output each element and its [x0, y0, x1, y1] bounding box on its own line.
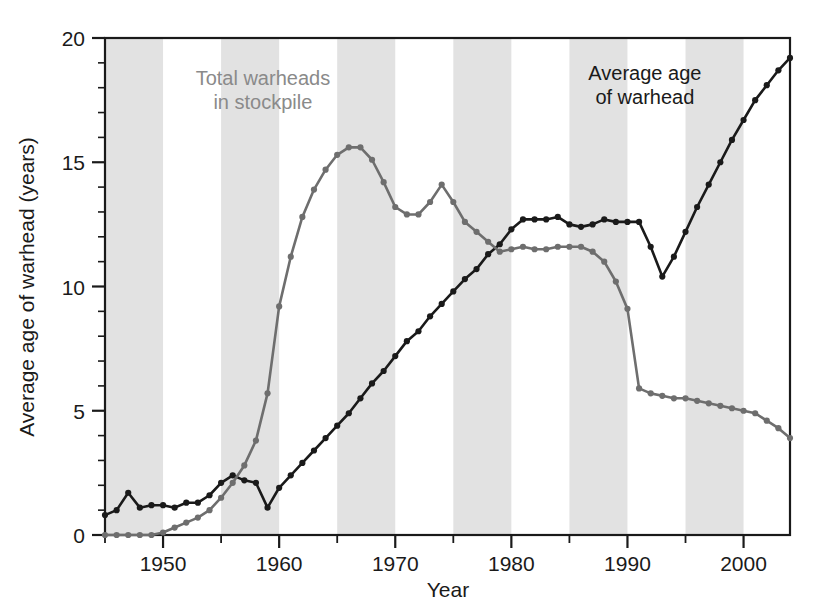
data-point — [764, 82, 770, 88]
year-band — [337, 38, 395, 535]
data-point — [648, 244, 654, 250]
data-point — [648, 390, 654, 396]
data-point — [148, 532, 154, 538]
data-point — [439, 301, 445, 307]
x-axis-title: Year — [427, 578, 469, 601]
data-point — [241, 477, 247, 483]
data-point — [334, 152, 340, 158]
data-point — [346, 144, 352, 150]
data-point — [706, 182, 712, 188]
data-point — [485, 239, 491, 245]
data-point — [102, 512, 108, 518]
data-point — [160, 529, 166, 535]
x-tick-label: 1970 — [372, 552, 419, 575]
data-point — [288, 254, 294, 260]
data-point — [671, 395, 677, 401]
data-point — [322, 167, 328, 173]
data-point — [241, 462, 247, 468]
data-point — [659, 393, 665, 399]
x-tick-label: 2000 — [720, 552, 767, 575]
data-point — [264, 505, 270, 511]
data-point — [694, 398, 700, 404]
data-point — [485, 251, 491, 257]
data-point — [172, 505, 178, 511]
annotation-line-2: of warhead — [595, 86, 694, 108]
data-point — [439, 182, 445, 188]
data-point — [392, 204, 398, 210]
data-point — [381, 179, 387, 185]
data-point — [137, 532, 143, 538]
data-point — [183, 500, 189, 506]
data-point — [218, 495, 224, 501]
data-point — [369, 380, 375, 386]
data-point — [114, 532, 120, 538]
y-axis-title: Average age of warhead (years) — [15, 137, 38, 437]
data-point — [508, 246, 514, 252]
data-point — [253, 480, 259, 486]
data-point — [520, 216, 526, 222]
data-point — [636, 385, 642, 391]
data-point — [497, 249, 503, 255]
data-point — [520, 244, 526, 250]
data-point — [590, 249, 596, 255]
series-annotations: Total warheadsin stockpileAverage ageof … — [196, 62, 702, 113]
data-point — [218, 480, 224, 486]
line-chart: 05101520195019601970198019902000 Total w… — [0, 0, 832, 614]
annotation-line-1: Average age — [588, 62, 701, 84]
data-point — [787, 435, 793, 441]
x-tick-label: 1990 — [604, 552, 651, 575]
y-tick-label: 0 — [73, 524, 85, 547]
data-point — [346, 410, 352, 416]
data-point — [752, 410, 758, 416]
data-point — [369, 157, 375, 163]
x-tick-label: 1950 — [140, 552, 187, 575]
data-point — [613, 278, 619, 284]
data-point — [752, 97, 758, 103]
data-point — [404, 338, 410, 344]
chart-container: 05101520195019601970198019902000 Total w… — [0, 0, 832, 614]
data-point — [729, 405, 735, 411]
data-point — [357, 144, 363, 150]
x-tick-label: 1980 — [488, 552, 535, 575]
data-point — [276, 303, 282, 309]
data-point — [671, 254, 677, 260]
data-point — [578, 244, 584, 250]
data-point — [160, 502, 166, 508]
data-point — [137, 505, 143, 511]
data-point — [381, 368, 387, 374]
data-point — [775, 67, 781, 73]
data-point — [334, 423, 340, 429]
data-point — [148, 502, 154, 508]
data-point — [682, 395, 688, 401]
data-point — [125, 532, 131, 538]
data-point — [415, 211, 421, 217]
data-point — [636, 219, 642, 225]
axis-tick-labels: 05101520195019601970198019902000 — [62, 27, 767, 575]
data-point — [311, 186, 317, 192]
data-point — [787, 55, 793, 61]
data-point — [183, 519, 189, 525]
data-point — [230, 480, 236, 486]
data-point — [717, 403, 723, 409]
data-point — [462, 276, 468, 282]
data-point — [764, 418, 770, 424]
data-point — [392, 353, 398, 359]
data-point — [102, 532, 108, 538]
data-point — [601, 259, 607, 265]
data-point — [543, 216, 549, 222]
data-point — [195, 500, 201, 506]
annotation-line-1: Total warheads — [196, 67, 331, 89]
data-point — [555, 214, 561, 220]
data-point — [543, 246, 549, 252]
data-point — [415, 328, 421, 334]
data-point — [775, 425, 781, 431]
year-band — [686, 38, 744, 535]
data-point — [740, 117, 746, 123]
data-point — [322, 435, 328, 441]
data-point — [450, 288, 456, 294]
data-point — [566, 244, 572, 250]
data-point — [578, 224, 584, 230]
data-point — [427, 313, 433, 319]
data-point — [450, 199, 456, 205]
data-point — [555, 244, 561, 250]
